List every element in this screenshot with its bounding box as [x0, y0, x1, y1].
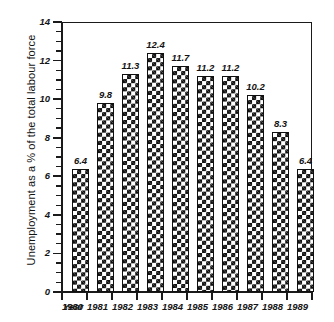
- x-tick: [186, 292, 188, 300]
- bar-value-label: 6.4: [66, 155, 96, 166]
- x-tick: [311, 292, 313, 300]
- y-tick-label: 8: [2, 132, 50, 143]
- bar: [197, 76, 215, 292]
- x-tick-label: 1985: [185, 301, 210, 312]
- bar: [72, 169, 90, 292]
- x-tick: [211, 292, 213, 300]
- y-tick-label: 2: [2, 247, 50, 258]
- bars-layer: 6.49.811.312.411.711.211.210.28.36.4: [62, 22, 312, 292]
- bar: [222, 76, 240, 292]
- x-tick: [261, 292, 263, 300]
- x-tick-label: 1988: [260, 301, 285, 312]
- y-tick-label: 4: [2, 209, 50, 220]
- bar: [122, 74, 140, 292]
- bar: [147, 53, 165, 292]
- x-tick-label: 1982: [110, 301, 135, 312]
- bar: [247, 95, 265, 292]
- bar: [172, 66, 190, 292]
- bar-value-label: 6.4: [291, 155, 321, 166]
- x-tick-label: 1981: [85, 301, 110, 312]
- x-tick-label: 1987: [235, 301, 260, 312]
- x-tick: [136, 292, 138, 300]
- y-tick-label: 0: [2, 286, 50, 297]
- x-tick-label: 1986: [210, 301, 235, 312]
- x-tick: [286, 292, 288, 300]
- x-tick: [161, 292, 163, 300]
- bar: [297, 169, 315, 292]
- bar-chart-figure: Unemployment as a % of the total labour …: [0, 0, 334, 322]
- x-tick-label: 1983: [135, 301, 160, 312]
- bar-value-label: 12.4: [141, 39, 171, 50]
- figure-caption: [8, 316, 328, 322]
- bar-value-label: 10.2: [241, 81, 271, 92]
- x-axis-tick-labels: 1980198119821983198419851986198719881989: [0, 301, 334, 315]
- y-tick-label: 10: [2, 93, 50, 104]
- x-tick-label: 1984: [160, 301, 185, 312]
- y-tick-label: 6: [2, 170, 50, 181]
- x-tick: [61, 292, 63, 300]
- x-tick: [236, 292, 238, 300]
- bar-value-label: 8.3: [266, 118, 296, 129]
- y-tick-label: 12: [2, 55, 50, 66]
- x-tick-label: 1989: [285, 301, 310, 312]
- bar-value-label: 11.3: [116, 60, 146, 71]
- x-tick: [86, 292, 88, 300]
- x-tick: [111, 292, 113, 300]
- bar: [97, 103, 115, 292]
- bar: [272, 132, 290, 292]
- bar-value-label: 9.8: [91, 89, 121, 100]
- bar-value-label: 11.2: [216, 62, 246, 73]
- y-tick-label: 14: [2, 16, 50, 27]
- x-tick-label: 1980: [60, 301, 85, 312]
